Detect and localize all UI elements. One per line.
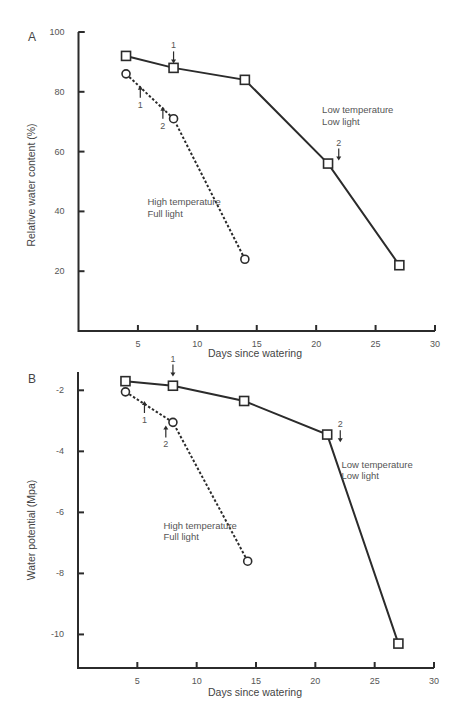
- x-tick-label: 30: [430, 339, 440, 349]
- annotation-text: Low temperature: [322, 104, 393, 115]
- arrowhead-icon: [160, 107, 165, 111]
- x-tick-label: 10: [192, 676, 202, 686]
- x-tick-label: 20: [310, 676, 320, 686]
- arrow-label: 1: [142, 415, 147, 425]
- y-tick-label: -8: [56, 568, 64, 578]
- arrow-label: 1: [170, 354, 175, 364]
- square-marker: [240, 75, 249, 84]
- panel-a-plot-area: Low temperatureLow lightHigh temperature…: [122, 40, 404, 269]
- circle-marker: [122, 70, 130, 78]
- arrow-label: 2: [163, 439, 168, 449]
- x-tick-label: 25: [370, 676, 380, 686]
- x-tick-label: 25: [371, 339, 381, 349]
- square-marker: [168, 381, 177, 390]
- panel-a-label: A: [28, 30, 36, 44]
- x-tick-label: 5: [135, 676, 140, 686]
- circle-marker: [241, 255, 249, 263]
- circle-marker: [169, 418, 177, 426]
- arrowhead-icon: [336, 157, 341, 161]
- x-tick-label: 15: [252, 339, 262, 349]
- circle-marker: [170, 115, 178, 123]
- panel-a-chart: A Relative water content (%) Days since …: [25, 27, 440, 359]
- figure: A Relative water content (%) Days since …: [0, 0, 460, 719]
- arrowhead-icon: [163, 425, 168, 429]
- x-tick-label: 30: [429, 676, 439, 686]
- panel-a-y-axis-title: Relative water content (%): [25, 123, 37, 246]
- series-low-temp-low-light-line: [126, 56, 399, 265]
- square-marker: [240, 396, 249, 405]
- square-marker: [122, 51, 131, 60]
- arrow-label: 2: [160, 121, 165, 131]
- panel-b-plot-area: Low temperatureLow lightHigh temperature…: [121, 354, 413, 649]
- annotation-text: Low light: [322, 116, 360, 127]
- y-tick-label: -2: [56, 385, 64, 395]
- arrowhead-icon: [338, 438, 343, 442]
- annotation-text: Low temperature: [341, 459, 412, 470]
- arrow-label: 2: [338, 419, 343, 429]
- annotation-text: Full light: [147, 208, 183, 219]
- panel-b-label: B: [28, 372, 36, 386]
- axis-lines: [79, 32, 436, 331]
- x-tick-label: 10: [192, 339, 202, 349]
- series-high-temp-full-light-line: [126, 74, 245, 259]
- square-marker: [121, 377, 130, 386]
- panel-b-axes: -2-4-6-8-1051015202530: [51, 372, 439, 686]
- x-tick-label: 15: [251, 676, 261, 686]
- y-tick-label: 40: [54, 206, 64, 216]
- y-tick-label: 20: [54, 266, 64, 276]
- annotation-text: High temperature: [147, 196, 220, 207]
- square-marker: [395, 261, 404, 270]
- arrow-label: 2: [336, 138, 341, 148]
- arrowhead-icon: [142, 401, 147, 405]
- square-marker: [169, 63, 178, 72]
- panel-b-y-axis-title: Water potential (Mpa): [25, 480, 37, 581]
- y-tick-label: 100: [49, 27, 64, 37]
- panel-b-x-axis-title: Days since watering: [208, 686, 302, 698]
- y-tick-label: -10: [51, 629, 64, 639]
- y-tick-label: 80: [54, 87, 64, 97]
- circle-marker: [244, 557, 252, 565]
- annotation-text: Full light: [163, 531, 199, 542]
- circle-marker: [121, 388, 129, 396]
- x-tick-label: 20: [311, 339, 321, 349]
- annotation-text: High temperature: [163, 520, 236, 531]
- arrowhead-icon: [170, 373, 175, 377]
- annotation-text: Low light: [341, 470, 379, 481]
- panel-b-chart: B Water potential (Mpa) Days since water…: [25, 354, 439, 698]
- square-marker: [324, 159, 333, 168]
- y-tick-label: -6: [56, 507, 64, 517]
- y-tick-label: -4: [56, 446, 64, 456]
- axis-lines: [78, 372, 434, 668]
- arrow-label: 1: [138, 100, 143, 110]
- arrowhead-icon: [138, 86, 143, 90]
- square-marker: [323, 430, 332, 439]
- square-marker: [394, 639, 403, 648]
- y-tick-label: 60: [54, 147, 64, 157]
- arrow-label: 1: [171, 40, 176, 50]
- x-tick-label: 5: [135, 339, 140, 349]
- series-low-temp-low-light-line: [125, 381, 398, 643]
